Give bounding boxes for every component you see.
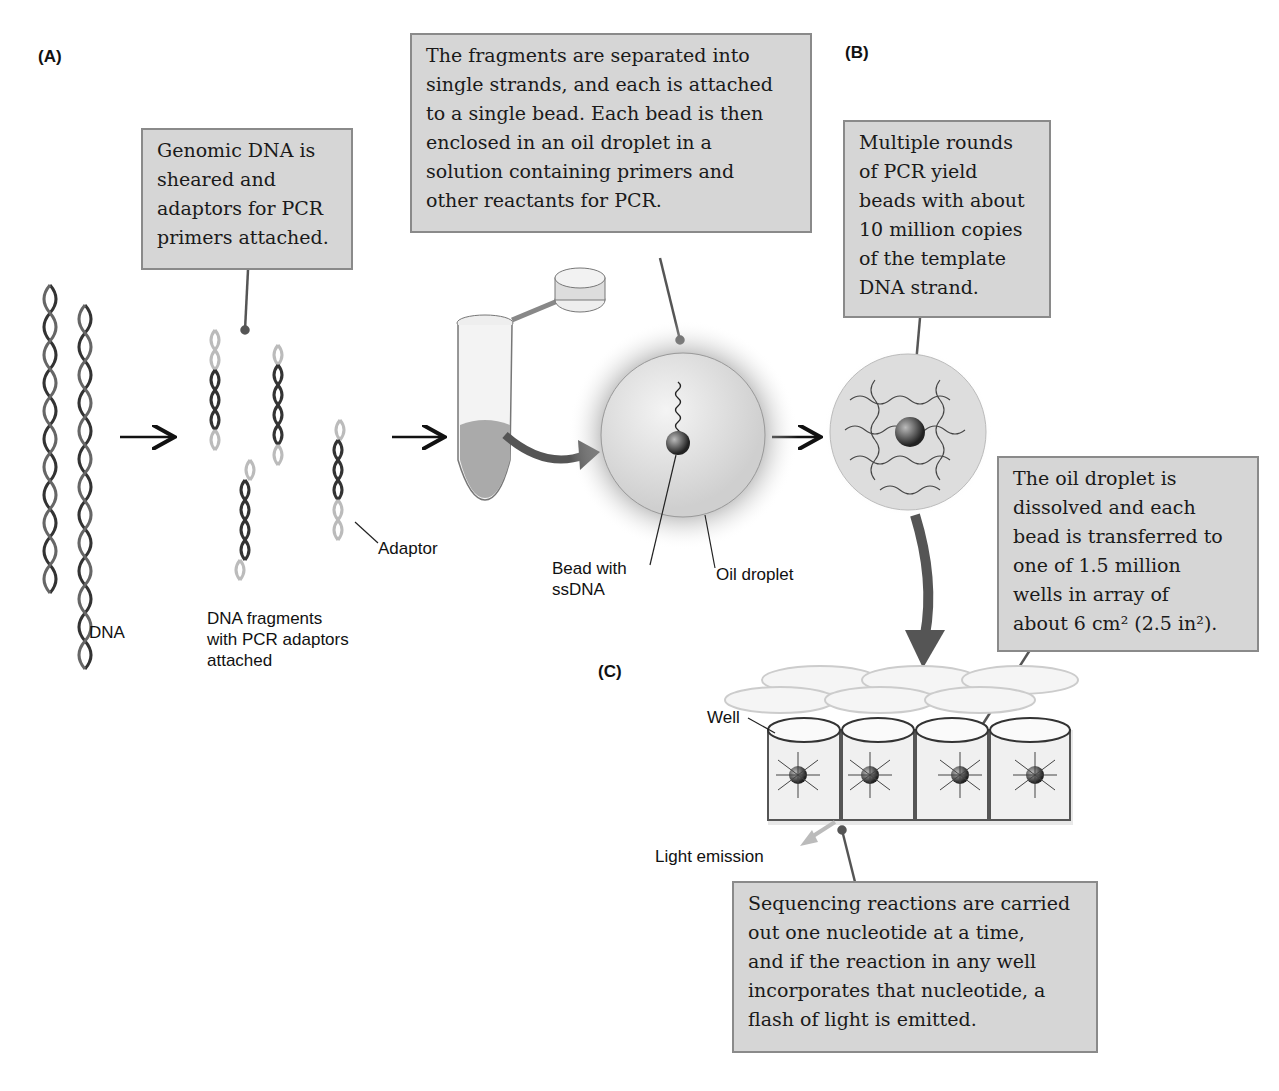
callout-line: primers attached. [157,223,341,252]
callout-line: bead is transferred to [1013,522,1247,551]
oil-droplet-icon [568,320,798,568]
callout-line: adaptors for PCR [157,194,341,223]
label-line: attached [207,650,349,671]
callout-line: sheared and [157,165,341,194]
callout-line: Sequencing reactions are carried [748,889,1086,918]
callout-line: DNA strand. [859,273,1039,302]
callout-line: of the template [859,244,1039,273]
callout-line: The fragments are separated into [426,41,800,70]
callout-sequencing: Sequencing reactions are carried out one… [732,881,1098,1053]
callout-line: one of 1.5 million [1013,551,1247,580]
label-well: Well [707,707,740,728]
callout-line: enclosed in an oil droplet in a [426,128,800,157]
callout-line: Multiple rounds [859,128,1039,157]
callout-line: incorporates that nucleotide, a [748,976,1086,1005]
label-line: DNA fragments [207,608,349,629]
callout-line: other reactants for PCR. [426,186,800,215]
label-line: ssDNA [552,579,627,600]
callout-line: about 6 cm² (2.5 in²). [1013,609,1247,638]
callout-line: of PCR yield [859,157,1039,186]
callout-line: out one nucleotide at a time, [748,918,1086,947]
label-line: with PCR adaptors [207,629,349,650]
callout-line: 10 million copies [859,215,1039,244]
callout-genomic-dna: Genomic DNA is sheared and adaptors for … [141,128,353,270]
dna-fragment-icon [211,330,344,580]
callout-fragments: The fragments are separated into single … [410,33,812,233]
callout-line: dissolved and each [1013,493,1247,522]
callout-line: wells in array of [1013,580,1247,609]
label-bead-ssdna: Bead with ssDNA [552,558,627,600]
callout-line: to a single bead. Each bead is then [426,99,800,128]
amplified-bead-icon [824,348,992,516]
callout-pcr-rounds: Multiple rounds of PCR yield beads with … [843,120,1051,318]
callout-oil-dissolved: The oil droplet is dissolved and each be… [997,456,1259,652]
callout-line: and if the reaction in any well [748,947,1086,976]
callout-line: single strands, and each is attached [426,70,800,99]
label-line: Bead with [552,558,627,579]
callout-line: Genomic DNA is [157,136,341,165]
label-light-emission: Light emission [655,846,764,867]
well-array-icon [725,666,1078,825]
callout-line: flash of light is emitted. [748,1005,1086,1034]
callout-line: solution containing primers and [426,157,800,186]
callout-line: The oil droplet is [1013,464,1247,493]
label-dna-fragments: DNA fragments with PCR adaptors attached [207,608,349,671]
label-adaptor: Adaptor [378,538,438,559]
dna-helix-icon [44,285,91,669]
label-oil-droplet: Oil droplet [716,564,793,585]
callout-line: beads with about [859,186,1039,215]
label-dna: DNA [89,622,125,643]
